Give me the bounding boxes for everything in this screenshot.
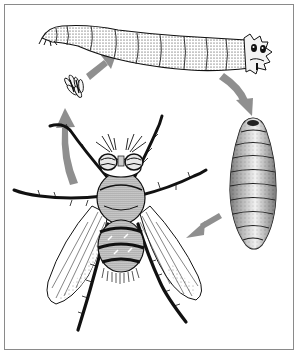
fly-life-cycle-diagram [0, 0, 298, 354]
larva-illustration [39, 26, 272, 75]
fly-head [96, 134, 146, 177]
cycle-arrows [56, 52, 253, 238]
adult-fly-illustration [14, 116, 206, 330]
larva-body [42, 26, 250, 71]
arrow-adult-to-eggs [56, 108, 78, 185]
arrow-pupa-to-adult [186, 213, 222, 238]
arrow-larva-to-pupa [219, 73, 253, 116]
eggs-illustration [63, 74, 84, 98]
pupa-illustration [230, 118, 276, 249]
fly-right-eye [125, 154, 143, 170]
larva-head [244, 34, 272, 74]
fly-thorax [97, 172, 145, 224]
fly-abdomen [98, 220, 144, 284]
fly-left-eye [99, 154, 117, 170]
